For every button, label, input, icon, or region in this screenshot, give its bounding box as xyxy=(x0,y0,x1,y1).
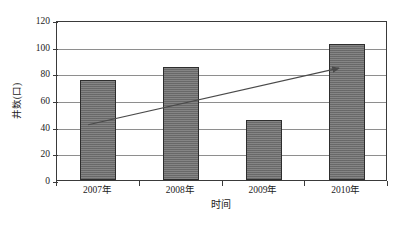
bar xyxy=(329,44,365,180)
y-tick-label: 60 xyxy=(41,97,51,107)
y-tick-label: 40 xyxy=(41,124,51,134)
x-tick-label: 2007年 xyxy=(83,186,112,196)
y-axis-title: 井数(口) xyxy=(13,83,23,119)
bar xyxy=(80,80,116,180)
plot-area: 120100806040200 xyxy=(56,21,387,181)
bar-series xyxy=(57,22,386,180)
x-axis-labels: 2007年2008年2009年2010年 xyxy=(56,186,387,200)
bar xyxy=(246,120,282,180)
bar xyxy=(163,67,199,180)
y-tick-label: 0 xyxy=(45,177,50,187)
x-tick-label: 2010年 xyxy=(331,186,360,196)
x-tick-label: 2008年 xyxy=(166,186,195,196)
x-tick-label: 2009年 xyxy=(248,186,277,196)
y-tick-label: 20 xyxy=(41,151,51,161)
x-tick-mark xyxy=(387,181,388,186)
chart-canvas: 井数(口) 120100806040200 2007年2008年2009年201… xyxy=(0,0,412,226)
y-tick-label: 120 xyxy=(36,17,50,27)
y-tick-label: 80 xyxy=(41,71,51,81)
x-axis-title: 时间 xyxy=(211,200,231,210)
y-tick-label: 100 xyxy=(36,44,50,54)
